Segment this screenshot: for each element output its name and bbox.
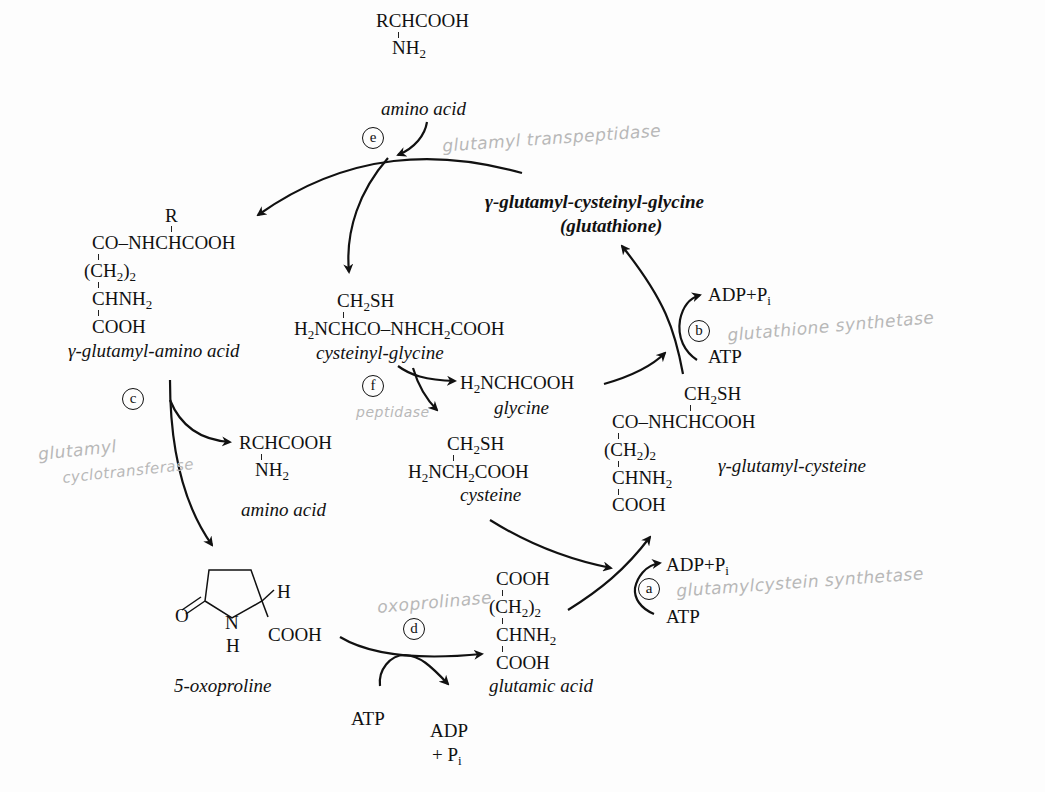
gga-line3: CHNH2	[92, 288, 152, 310]
glu-line2: (CH2)2	[489, 596, 541, 618]
glycine-label: glycine	[494, 397, 549, 419]
cysgly-top: CH2SH	[337, 290, 394, 312]
step-d-marker: d	[403, 618, 425, 640]
gga-r: R	[165, 205, 178, 227]
glutathione-label: γ-glutamyl-cysteinyl-glycine	[485, 191, 704, 213]
amino-acid-top-label: amino acid	[381, 98, 466, 120]
amino-acid-mid-nh2: NH2	[255, 459, 289, 481]
glu-line3: CHNH2	[496, 624, 556, 646]
glutathione-common-name: (glutathione)	[560, 215, 662, 237]
ggc-top: CH2SH	[684, 383, 741, 405]
d-pi: + Pi	[432, 744, 462, 766]
gga-line1: CO–NHCHCOOH	[92, 232, 236, 254]
oxopro-nh: H	[226, 635, 240, 657]
gga-label: γ-glutamyl-amino acid	[68, 340, 240, 362]
cysgly-main: H2NCHCO–NHCH2COOH	[294, 318, 504, 340]
ggc-line1: CO–NHCHCOOH	[612, 411, 756, 433]
gga-line4: COOH	[92, 316, 146, 338]
step-e-marker: e	[362, 127, 384, 149]
enzyme-f-annotation: peptidase	[356, 404, 430, 420]
ggc-line3: CHNH2	[612, 467, 672, 489]
glu-line1: COOH	[496, 568, 550, 590]
oxopro-h: H	[277, 581, 291, 603]
a-atp: ATP	[666, 606, 700, 628]
step-c-marker: c	[122, 388, 144, 410]
amino-acid-top-nh2: NH2	[392, 37, 426, 59]
amino-acid-mid-formula: RCHCOOH	[239, 432, 332, 454]
glu-label: glutamic acid	[489, 675, 593, 697]
ggc-label: γ-glutamyl-cysteine	[718, 455, 866, 477]
glycine-formula: H2NCHCOOH	[460, 372, 574, 394]
amino-acid-mid-label: amino acid	[241, 499, 326, 521]
cys-main: H2NCH2COOH	[408, 461, 529, 483]
a-adp-pi: ADP+Pi	[666, 554, 729, 576]
b-adp-pi: ADP+Pi	[708, 284, 771, 306]
amino-acid-top-formula: RCHCOOH	[376, 10, 469, 32]
ggc-line4: COOH	[612, 494, 666, 516]
gga-line2: (CH2)2	[84, 260, 136, 282]
step-f-marker: f	[362, 375, 384, 397]
ggc-line2: (CH2)2	[604, 439, 656, 461]
cysgly-label: cysteinyl-glycine	[316, 342, 444, 364]
d-atp: ATP	[351, 708, 385, 730]
cys-label: cysteine	[460, 484, 521, 506]
step-b-marker: b	[688, 320, 710, 342]
glu-line4: COOH	[496, 652, 550, 674]
oxopro-o: O	[175, 605, 189, 627]
step-a-marker: a	[638, 578, 660, 600]
d-adp: ADP	[430, 720, 468, 742]
diagram-canvas: RCHCOOH NH2 amino acid e glutamyl transp…	[0, 0, 1045, 792]
oxopro-label: 5-oxoproline	[174, 675, 271, 697]
oxopro-n: N	[225, 612, 239, 634]
cys-top: CH2SH	[447, 433, 504, 455]
b-atp: ATP	[708, 346, 742, 368]
oxopro-cooh: COOH	[268, 624, 322, 646]
